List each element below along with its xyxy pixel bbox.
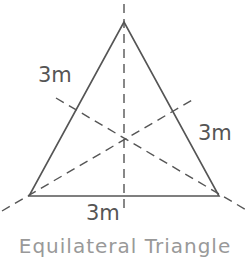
symmetry-line-left	[2, 99, 194, 211]
symmetry-line-right	[56, 98, 248, 211]
caption: Equilateral Triangle	[0, 236, 250, 256]
label-right-side: 3m	[198, 123, 232, 144]
label-left-side: 3m	[38, 65, 72, 86]
label-bottom-side: 3m	[86, 203, 120, 224]
